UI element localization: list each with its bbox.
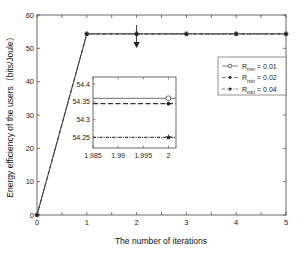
arrow-annotation	[133, 25, 139, 48]
x-tick-label: 0	[35, 218, 39, 227]
x-tick-label: 3	[184, 218, 188, 227]
y-tick-label: 60	[26, 11, 34, 20]
y-tick-label: 10	[26, 177, 34, 186]
inset-y-tick-label: 54.3	[76, 116, 90, 123]
y-tick-label: 20	[26, 144, 34, 153]
inset-x-tick-label: 1.985	[84, 152, 102, 159]
y-tick-label: 40	[26, 77, 34, 86]
inset-y-tick-label: 54.25	[72, 134, 90, 141]
x-tick-label: 4	[234, 218, 238, 227]
y-tick-label: 30	[26, 111, 34, 120]
legend: Rmin = 0.01Rmin = 0.02Rmin = 0.04	[218, 57, 286, 95]
inset-plot: 54.2554.354.3554.41.9851.991.9952	[72, 77, 176, 159]
y-tick-label: 50	[26, 44, 34, 53]
x-tick-label: 2	[135, 218, 139, 227]
x-tick-label: 1	[85, 218, 89, 227]
inset-x-tick-label: 1.99	[111, 152, 125, 159]
x-tick-label: 5	[284, 218, 288, 227]
chart: 0102030405060 012345 The number of itera…	[0, 0, 300, 253]
inset-y-tick-label: 54.35	[72, 98, 90, 105]
inset-x-tick-label: 1.995	[135, 152, 153, 159]
inset-x-tick-label: 2	[167, 152, 171, 159]
x-axis-label: The number of iterations	[115, 236, 207, 246]
inset-y-tick-label: 54.4	[76, 81, 90, 88]
y-axis-label: Energy efficiency of the users（bits/Joul…	[5, 32, 15, 197]
y-tick-label: 0	[30, 211, 34, 220]
